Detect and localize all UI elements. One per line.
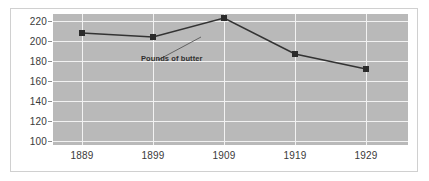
- plot-area: [53, 14, 408, 145]
- y-axis-tick-mark: [48, 141, 52, 142]
- series-annotation-label: Pounds of butter: [141, 54, 203, 63]
- data-point-marker: [221, 15, 227, 21]
- y-axis-tick-mark: [48, 101, 52, 102]
- chart-figure: 220 200 180 160 140 120 100 1889 1899 19…: [0, 0, 429, 181]
- data-point-marker: [292, 51, 298, 57]
- y-axis-tick-label: 140: [7, 96, 47, 107]
- data-point-marker: [79, 30, 85, 36]
- data-point-marker: [150, 34, 156, 40]
- y-axis-tick-label: 100: [7, 136, 47, 147]
- y-axis-tick-mark: [48, 61, 52, 62]
- x-axis-tick-label: 1889: [58, 150, 106, 161]
- y-axis-tick-mark: [48, 121, 52, 122]
- y-axis-tick-label: 200: [7, 36, 47, 47]
- x-axis-tick-label: 1909: [200, 150, 248, 161]
- y-axis-tick-mark: [48, 81, 52, 82]
- x-axis-tick-label: 1929: [342, 150, 390, 161]
- data-point-marker: [363, 66, 369, 72]
- x-axis-tick-label: 1919: [271, 150, 319, 161]
- y-axis-tick-mark: [48, 41, 52, 42]
- data-series-butter: [53, 14, 408, 145]
- data-line: [82, 18, 366, 69]
- y-axis-tick-label: 180: [7, 56, 47, 67]
- y-axis-tick-label: 120: [7, 116, 47, 127]
- y-axis-tick-mark: [48, 21, 52, 22]
- y-axis-tick-label: 160: [7, 76, 47, 87]
- x-axis-tick-label: 1899: [129, 150, 177, 161]
- y-axis-tick-label: 220: [7, 16, 47, 27]
